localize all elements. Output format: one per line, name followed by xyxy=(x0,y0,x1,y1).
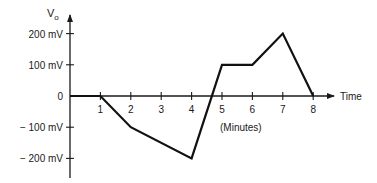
x-tick-label: 6 xyxy=(250,104,256,115)
chart-svg: Vo Time (Minutes) 200 mV100 mV0− 100 mV−… xyxy=(0,0,377,183)
y-tick-label: − 100 mV xyxy=(20,122,63,133)
x-tick-label: 3 xyxy=(158,104,164,115)
x-tick-label: 4 xyxy=(189,104,195,115)
x-tick-label: 5 xyxy=(219,104,225,115)
x-tick-label: 2 xyxy=(128,104,134,115)
y-tick-label: 200 mV xyxy=(29,29,64,40)
x-tick-label: 1 xyxy=(98,104,104,115)
y-tick-label: 0 xyxy=(57,91,63,102)
y-ticks: 200 mV100 mV0− 100 mV− 200 mV xyxy=(20,29,74,165)
voltage-time-chart: Vo Time (Minutes) 200 mV100 mV0− 100 mV−… xyxy=(0,0,377,183)
x-tick-label: 8 xyxy=(310,104,316,115)
x-axis-units: (Minutes) xyxy=(220,122,262,133)
x-axis-title: Time xyxy=(340,91,362,102)
y-tick-label: − 200 mV xyxy=(20,153,63,164)
x-tick-label: 7 xyxy=(280,104,286,115)
y-tick-label: 100 mV xyxy=(29,60,64,71)
y-axis-title: Vo xyxy=(47,7,59,22)
